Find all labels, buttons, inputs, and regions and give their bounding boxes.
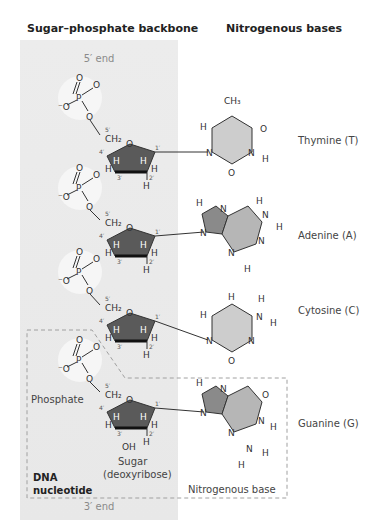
dna-nucleotide-label-line1: DNA: [33, 471, 57, 484]
svg-text:H: H: [270, 318, 277, 328]
sugar-sub-label: (deoxyribose): [103, 469, 172, 480]
svg-text:H: H: [258, 294, 265, 304]
dna-nucleotide-label-line2: nucleotide: [33, 484, 92, 497]
svg-text:H: H: [200, 122, 207, 132]
svg-text:O: O: [228, 356, 235, 366]
svg-text:O: O: [228, 168, 235, 178]
svg-text:H: H: [196, 378, 203, 388]
svg-text:H: H: [276, 222, 283, 232]
svg-text:N: N: [256, 312, 263, 322]
cytosine-structure: N N O N H H H H: [200, 292, 277, 366]
dna-structure-diagram: P O O ⁻O O O H H H H H 4′ 1′ 3′ 2′ CH₂ 5…: [0, 0, 370, 520]
svg-text:N: N: [206, 148, 213, 158]
svg-text:O: O: [260, 124, 267, 134]
svg-text:N: N: [220, 204, 227, 214]
base-label-thymine: Thymine (T): [298, 135, 358, 146]
thymine-structure: N N O O CH₃ H H: [200, 96, 269, 178]
svg-text:N: N: [246, 444, 253, 454]
svg-text:H: H: [196, 198, 203, 208]
svg-text:H: H: [262, 448, 269, 458]
svg-text:N: N: [262, 210, 269, 220]
svg-text:H: H: [244, 264, 251, 274]
svg-text:H: H: [262, 154, 269, 164]
svg-text:N: N: [248, 148, 255, 158]
adenine-structure: N N N N N H H H H: [196, 196, 283, 274]
sugar-label: Sugar: [118, 456, 147, 467]
base-label-adenine: Adenine (A): [298, 230, 357, 241]
guanine-structure: N N N N O N H H H H: [196, 378, 277, 470]
svg-text:H: H: [256, 196, 263, 206]
base-label-guanine: Guanine (G): [298, 418, 359, 429]
svg-text:N: N: [228, 248, 235, 258]
svg-text:N: N: [200, 228, 207, 238]
phosphate-label: Phosphate: [31, 394, 84, 405]
svg-text:N: N: [248, 336, 255, 346]
svg-text:H: H: [270, 422, 277, 432]
base-label-cytosine: Cytosine (C): [298, 305, 359, 316]
svg-text:H: H: [200, 310, 207, 320]
svg-text:CH₃: CH₃: [224, 96, 241, 106]
svg-text:O: O: [262, 390, 269, 400]
nitrogenous-base-label: Nitrogenous base: [188, 484, 276, 495]
svg-text:H: H: [238, 460, 245, 470]
svg-text:H: H: [228, 292, 235, 302]
svg-text:OH: OH: [122, 442, 136, 452]
svg-text:N: N: [258, 236, 265, 246]
svg-text:N: N: [258, 416, 265, 426]
svg-text:N: N: [220, 384, 227, 394]
svg-text:N: N: [200, 408, 207, 418]
svg-text:N: N: [228, 428, 235, 438]
svg-text:N: N: [206, 336, 213, 346]
